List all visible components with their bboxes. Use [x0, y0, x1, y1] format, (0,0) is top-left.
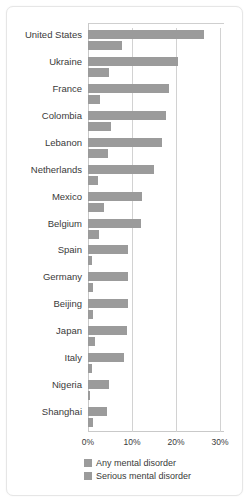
category-label: Shanghai: [2, 406, 82, 418]
bar-group: Italy: [88, 351, 220, 378]
category-label: Nigeria: [2, 379, 82, 391]
plot-area: United StatesUkraineFranceColombiaLebano…: [88, 28, 220, 432]
category-label: Mexico: [2, 191, 82, 203]
bar-group: United States: [88, 28, 220, 55]
bar-group: Spain: [88, 243, 220, 270]
bar-group: Japan: [88, 324, 220, 351]
bar-group: Lebanon: [88, 136, 220, 163]
chart-legend: Any mental disorder Serious mental disor…: [84, 458, 244, 484]
bar-group: Netherlands: [88, 163, 220, 190]
gridline: [220, 28, 221, 432]
x-axis-tick-label: 20%: [167, 437, 184, 447]
bar-group: Ukraine: [88, 55, 220, 82]
bar-group: France: [88, 82, 220, 109]
bar-any: [88, 192, 142, 201]
bar-any: [88, 380, 109, 389]
bar-group: Belgium: [88, 217, 220, 244]
bar-serious: [88, 364, 92, 373]
bar-serious: [88, 256, 92, 265]
category-label: Japan: [2, 325, 82, 337]
bar-serious: [88, 418, 93, 427]
bar-serious: [88, 122, 111, 131]
bar-serious: [88, 68, 109, 77]
bar-any: [88, 326, 127, 335]
category-label: Netherlands: [2, 164, 82, 176]
bar-serious: [88, 310, 93, 319]
x-axis-tick-label: 0%: [82, 437, 94, 447]
category-label: Colombia: [2, 110, 82, 122]
category-label: Belgium: [2, 218, 82, 230]
category-label: Ukraine: [2, 56, 82, 68]
bar-any: [88, 407, 107, 416]
bar-serious: [88, 149, 108, 158]
bar-serious: [88, 176, 98, 185]
category-label: Lebanon: [2, 137, 82, 149]
bar-group: Colombia: [88, 109, 220, 136]
bar-serious: [88, 203, 104, 212]
bar-any: [88, 353, 124, 362]
x-axis-tick-label: 30%: [211, 437, 228, 447]
bar-group: Shanghai: [88, 405, 220, 432]
category-label: Italy: [2, 352, 82, 364]
bar-group: Germany: [88, 270, 220, 297]
bar-serious: [88, 230, 99, 239]
bar-group: Beijing: [88, 297, 220, 324]
category-label: Germany: [2, 271, 82, 283]
bar-any: [88, 30, 204, 39]
legend-item-serious: Serious mental disorder: [84, 471, 244, 481]
legend-swatch-icon: [84, 459, 92, 467]
bar-any: [88, 299, 128, 308]
x-axis-tick-label: 10%: [123, 437, 140, 447]
bar-group: Mexico: [88, 190, 220, 217]
bar-any: [88, 57, 178, 66]
bar-serious: [88, 95, 100, 104]
bar-serious: [88, 391, 90, 400]
bar-serious: [88, 41, 122, 50]
bar-any: [88, 272, 128, 281]
bar-any: [88, 219, 141, 228]
legend-label: Any mental disorder: [96, 458, 176, 468]
category-label: Beijing: [2, 298, 82, 310]
bar-group: Nigeria: [88, 378, 220, 405]
bar-serious: [88, 337, 95, 346]
bar-any: [88, 138, 162, 147]
legend-swatch-icon: [84, 472, 92, 480]
bar-any: [88, 245, 128, 254]
bar-chart: United StatesUkraineFranceColombiaLebano…: [0, 0, 249, 502]
bar-serious: [88, 283, 93, 292]
axis-top-line: [88, 23, 224, 24]
legend-item-any: Any mental disorder: [84, 458, 244, 468]
category-label: France: [2, 83, 82, 95]
category-label: Spain: [2, 244, 82, 256]
legend-label: Serious mental disorder: [96, 471, 191, 481]
bar-any: [88, 165, 154, 174]
bar-any: [88, 111, 166, 120]
category-label: United States: [2, 29, 82, 41]
bar-any: [88, 84, 169, 93]
